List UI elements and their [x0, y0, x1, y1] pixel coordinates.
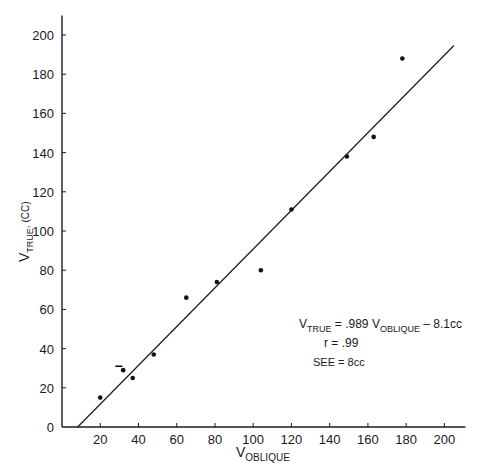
scatter-chart: 2040608010012014016018020002040608010012…	[0, 0, 479, 473]
y-tick-label: 80	[40, 263, 54, 278]
y-tick-label: 140	[32, 146, 54, 161]
data-points	[98, 56, 405, 400]
regression-line-path	[78, 45, 454, 426]
x-tick-label: 140	[319, 432, 341, 447]
x-tick-label: 40	[131, 432, 145, 447]
y-tick-label: 160	[32, 106, 54, 121]
data-point	[215, 280, 220, 285]
axis-ticks: 2040608010012014016018020002040608010012…	[32, 28, 455, 447]
data-point	[259, 268, 264, 273]
data-point	[371, 135, 376, 140]
regression-equation: VTRUE = .989 VOBLIQUE – 8.1cc	[299, 317, 462, 334]
y-tick-label: 40	[40, 342, 54, 357]
y-tick-label: 120	[32, 185, 54, 200]
data-point	[151, 352, 156, 357]
regression-line	[78, 45, 454, 426]
axes	[62, 15, 465, 427]
data-point	[98, 395, 103, 400]
x-tick-label: 160	[357, 432, 379, 447]
y-axis-label: VTRUE, (CC)	[16, 201, 35, 262]
x-tick-label: 20	[93, 432, 107, 447]
data-point	[184, 295, 189, 300]
y-tick-label: 60	[40, 302, 54, 317]
standard-error: SEE = 8cc	[313, 356, 365, 368]
x-tick-label: 120	[281, 432, 303, 447]
y-tick-label: 180	[32, 67, 54, 82]
correlation-r: r = .99	[324, 336, 359, 350]
y-tick-label: 20	[40, 381, 54, 396]
data-point	[130, 376, 135, 381]
y-tick-label: 200	[32, 28, 54, 43]
x-tick-label: 80	[208, 432, 222, 447]
x-tick-label: 100	[242, 432, 264, 447]
data-point	[400, 56, 405, 61]
y-tick-label: 100	[32, 224, 54, 239]
y-tick-label: 0	[47, 420, 54, 435]
x-tick-label: 180	[395, 432, 417, 447]
data-point	[345, 154, 350, 159]
x-tick-label: 60	[169, 432, 183, 447]
data-point	[289, 207, 294, 212]
x-tick-label: 200	[434, 432, 456, 447]
data-point	[121, 368, 126, 373]
